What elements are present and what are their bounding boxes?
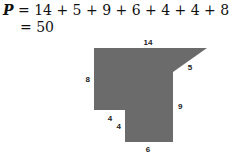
label-left: 8 bbox=[86, 75, 91, 84]
label-top: 14 bbox=[144, 38, 153, 47]
label-inner-horizontal: 4 bbox=[108, 114, 113, 123]
label-right: 9 bbox=[178, 102, 183, 111]
label-diagonal: 5 bbox=[188, 63, 193, 72]
label-bottom: 6 bbox=[146, 145, 151, 154]
polygon-figure: 14 5 9 6 4 4 8 bbox=[0, 0, 236, 158]
label-inner-vertical: 4 bbox=[117, 122, 122, 131]
